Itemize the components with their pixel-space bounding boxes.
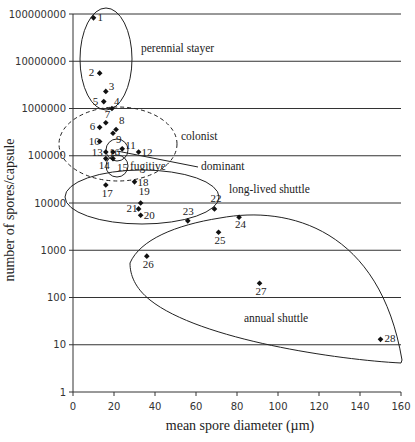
data-point-marker <box>138 200 144 206</box>
data-point-marker <box>136 149 142 155</box>
data-point-label: 7 <box>105 108 111 120</box>
data-point-label: 12 <box>142 146 153 158</box>
data-point-marker <box>97 70 103 76</box>
data-point-label: 20 <box>144 209 156 221</box>
data-point-label: 24 <box>235 218 247 230</box>
fugitive-label: fugitive <box>130 160 166 173</box>
data-point-label: 8 <box>119 114 125 126</box>
x-tick-label: 100 <box>268 401 287 412</box>
data-point-marker <box>97 124 103 130</box>
data-point-label: 17 <box>102 187 114 199</box>
colonist-label: colonist <box>181 130 218 142</box>
data-point-label: 9 <box>116 133 122 145</box>
y-tick-label: 10000 <box>34 198 66 209</box>
perennial-stayer-region <box>80 8 132 110</box>
y-axis-title: number of spores/capsule <box>2 138 17 281</box>
data-point-marker <box>103 89 109 95</box>
data-point-label: 16 <box>109 146 121 158</box>
data-point-label: 26 <box>143 258 155 270</box>
data-point-label: 6 <box>90 120 96 132</box>
data-point-label: 25 <box>215 234 227 246</box>
y-tick-label: 1000000 <box>21 103 66 114</box>
data-point-label: 11 <box>125 139 136 151</box>
data-point-marker <box>378 337 384 343</box>
long-lived-shuttle-label: long-lived shuttle <box>229 183 310 196</box>
y-tick-label: 10000000 <box>15 56 66 67</box>
annual-shuttle-label: annual shuttle <box>244 312 308 324</box>
dominant-label: dominant <box>201 160 245 172</box>
y-tick-label: 100000000 <box>9 9 66 20</box>
scatter-chart: 1101001000100001000001000000100000001000… <box>0 0 415 442</box>
perennial-stayer-label: perennial stayer <box>141 42 214 55</box>
x-tick-label: 20 <box>108 401 121 412</box>
data-point-label: 2 <box>89 66 95 78</box>
y-tick-label: 1000 <box>41 245 66 256</box>
data-point-marker <box>101 99 107 105</box>
y-tick-label: 1 <box>60 387 66 398</box>
data-point-label: 21 <box>127 202 138 214</box>
data-point-label: 14 <box>99 159 111 171</box>
data-point-marker <box>113 127 119 133</box>
gridlines <box>73 14 401 392</box>
x-tick-label: 40 <box>149 401 162 412</box>
x-tick-label: 120 <box>309 401 328 412</box>
data-point-marker <box>119 146 125 152</box>
data-point-label: 15 <box>117 161 129 173</box>
data-point-label: 22 <box>210 192 221 204</box>
data-point-label: 3 <box>109 80 115 92</box>
data-point-label: 23 <box>183 205 195 217</box>
data-point-label: 28 <box>385 332 397 344</box>
x-tick-label: 160 <box>391 401 410 412</box>
data-point-marker <box>110 130 116 136</box>
data-point-label: 4 <box>114 95 120 107</box>
y-tick-label: 10 <box>53 339 66 350</box>
data-point-marker <box>103 120 109 126</box>
x-tick-label: 80 <box>231 401 244 412</box>
x-tick-label: 60 <box>190 401 203 412</box>
x-tick-label: 140 <box>350 401 369 412</box>
x-tick-label: 0 <box>70 401 76 412</box>
y-tick-label: 100 <box>47 292 66 303</box>
data-point-label: 5 <box>93 95 99 107</box>
data-point-label: 13 <box>92 146 104 158</box>
data-point-marker <box>103 149 109 155</box>
data-point-label: 1 <box>98 11 104 23</box>
data-point-marker <box>212 206 218 212</box>
data-point-label: 19 <box>139 185 151 197</box>
x-axis-title: mean spore diameter (µm) <box>166 418 315 434</box>
data-point-label: 10 <box>89 135 101 147</box>
data-point-marker <box>138 212 144 218</box>
data-point-label: 27 <box>256 285 267 297</box>
y-tick-label: 100000 <box>28 150 66 161</box>
data-point-marker <box>132 179 138 185</box>
